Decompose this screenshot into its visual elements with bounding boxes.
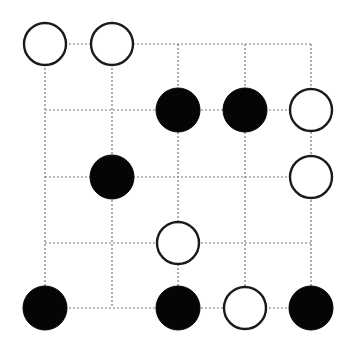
white-stone-icon[interactable] <box>24 23 66 65</box>
black-stone-icon[interactable] <box>23 286 67 330</box>
intersection-r3-c0[interactable] <box>23 221 67 265</box>
intersection-r3-c1[interactable] <box>90 221 134 265</box>
white-stone-icon[interactable] <box>290 89 332 131</box>
game-board <box>0 0 356 355</box>
black-stone-icon[interactable] <box>289 286 333 330</box>
intersection-r0-c2[interactable] <box>156 22 200 66</box>
white-stone-icon[interactable] <box>224 287 266 329</box>
white-stone-icon[interactable] <box>91 23 133 65</box>
intersection-r2-c3[interactable] <box>223 155 267 199</box>
black-stone-icon[interactable] <box>156 88 200 132</box>
white-stone-icon[interactable] <box>290 156 332 198</box>
board-canvas <box>0 0 356 355</box>
intersection-r3-c4[interactable] <box>289 221 333 265</box>
black-stone-icon[interactable] <box>223 88 267 132</box>
intersection-r3-c3[interactable] <box>223 221 267 265</box>
intersection-r0-c3[interactable] <box>223 22 267 66</box>
black-stone-icon[interactable] <box>90 155 134 199</box>
black-stone-icon[interactable] <box>156 286 200 330</box>
white-stone-icon[interactable] <box>157 222 199 264</box>
intersection-r0-c4[interactable] <box>289 22 333 66</box>
intersection-r1-c1[interactable] <box>90 88 134 132</box>
intersection-r2-c2[interactable] <box>156 155 200 199</box>
intersection-r1-c0[interactable] <box>23 88 67 132</box>
intersection-r4-c1[interactable] <box>90 286 134 330</box>
intersection-r2-c0[interactable] <box>23 155 67 199</box>
